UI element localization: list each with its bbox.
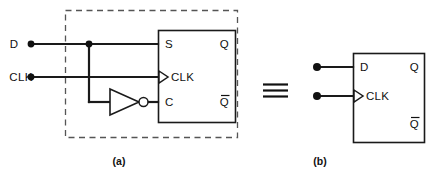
wire-junction-dot: [86, 41, 93, 48]
panel-b: D CLK Q Q (b): [313, 54, 425, 168]
pin-label-q-b: Q: [410, 61, 419, 73]
caption-panel-a: (a): [113, 155, 126, 167]
clock-wedge-icon-b: [354, 90, 363, 102]
pin-label-s: S: [165, 38, 173, 50]
panel-a: D CLK S CLK C Q Q (a): [9, 11, 237, 168]
not-gate-icon: [110, 89, 139, 115]
pin-label-c: C: [165, 96, 174, 108]
pin-label-d-b: D: [360, 61, 369, 73]
input-terminal-clk-dot-b[interactable]: [313, 92, 321, 100]
pin-label-clk-a: CLK: [171, 71, 194, 83]
clock-wedge-icon-a: [159, 71, 168, 83]
figure-root: D CLK S CLK C Q Q (a): [0, 0, 436, 179]
caption-panel-b: (b): [313, 155, 326, 167]
pin-label-q-a: Q: [220, 38, 229, 50]
not-gate-bubble-icon: [139, 98, 148, 107]
pin-label-qbar-a: Q: [220, 96, 229, 108]
equivalence-symbol: [263, 85, 288, 97]
circuit-diagram: D CLK S CLK C Q Q (a): [0, 0, 436, 179]
pin-label-clk-b: CLK: [366, 90, 389, 102]
pin-label-qbar-b: Q: [410, 118, 419, 130]
input-label-d: D: [10, 38, 19, 50]
input-label-clk: CLK: [9, 71, 33, 83]
input-terminal-d-dot-b[interactable]: [313, 63, 321, 71]
input-terminal-d-dot[interactable]: [28, 41, 35, 48]
panel-a-dashed-boundary: [66, 11, 238, 138]
